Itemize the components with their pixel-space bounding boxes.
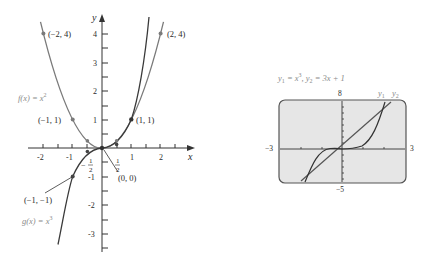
point-pos-half-g	[115, 143, 119, 147]
curve-g-cubic	[58, 17, 149, 245]
x-tick-label: -1	[66, 153, 73, 162]
calculator-screen	[279, 100, 406, 183]
point-0-0	[100, 146, 104, 150]
point-neg2-4	[41, 32, 45, 36]
x-tick-label: 2	[159, 153, 163, 162]
label-f-function: f(x) = x2	[18, 92, 47, 103]
point-2-4	[159, 32, 163, 36]
label-point-1-1: (1, 1)	[136, 115, 155, 125]
window-xmin-label: −3	[265, 144, 273, 153]
point-neg-half-f	[86, 139, 90, 143]
leader-neg1-neg1	[45, 177, 72, 193]
window-ymin-label: −5	[336, 185, 344, 194]
label-point-0-0: (0, 0)	[118, 173, 137, 183]
point-pos-half-f	[115, 139, 119, 143]
svg-text:1: 1	[89, 157, 93, 165]
left-graph: x y -2 -1 1 2 4 3 2 1 -1 -2 -3 − 1 2 1 2	[18, 12, 195, 252]
svg-text:1: 1	[116, 157, 120, 165]
figure-canvas: x y -2 -1 1 2 4 3 2 1 -1 -2 -3 − 1 2 1 2	[0, 0, 436, 269]
y-axis-label: y	[91, 12, 97, 23]
calculator-graph: y1 = x3, y2 = 3x + 1 8 −5 −3 3 y1 y2	[265, 72, 414, 194]
x-tick-label: -2	[37, 153, 44, 162]
label-point-2-4: (2, 4)	[167, 29, 186, 39]
label-g-function: g(x) = x3	[22, 215, 52, 226]
x-axis-label: x	[187, 151, 193, 162]
y-ticks	[102, 34, 108, 248]
label-point-neg1-neg1: (−1, −1)	[24, 195, 52, 205]
y-tick-label: -2	[88, 201, 95, 210]
y-tick-label: 1	[93, 116, 97, 125]
svg-text:2: 2	[89, 166, 93, 174]
label-y1: y1	[377, 88, 385, 99]
point-neg1-1	[71, 117, 75, 121]
y-tick-label: 3	[93, 59, 97, 68]
y-axis-arrow-icon	[99, 14, 105, 22]
y-tick-label: -3	[88, 230, 95, 239]
x-tick-label: 1	[130, 153, 134, 162]
point-neg1-neg1	[71, 175, 75, 179]
svg-text:−: −	[81, 161, 86, 170]
calculator-equation: y1 = x3, y2 = 3x + 1	[277, 72, 345, 84]
point-1-1	[129, 117, 133, 121]
point-neg-half-g	[86, 150, 90, 154]
label-point-neg2-4: (−2, 4)	[48, 29, 71, 39]
label-y2: y2	[391, 88, 399, 99]
y-tick-label: -1	[88, 173, 95, 182]
y-tick-label: 2	[93, 87, 97, 96]
y-tick-label: 4	[93, 30, 97, 39]
label-point-neg1-1: (−1, 1)	[38, 115, 61, 125]
window-xmax-label: 3	[410, 144, 414, 153]
window-ymax-label: 8	[338, 89, 342, 98]
